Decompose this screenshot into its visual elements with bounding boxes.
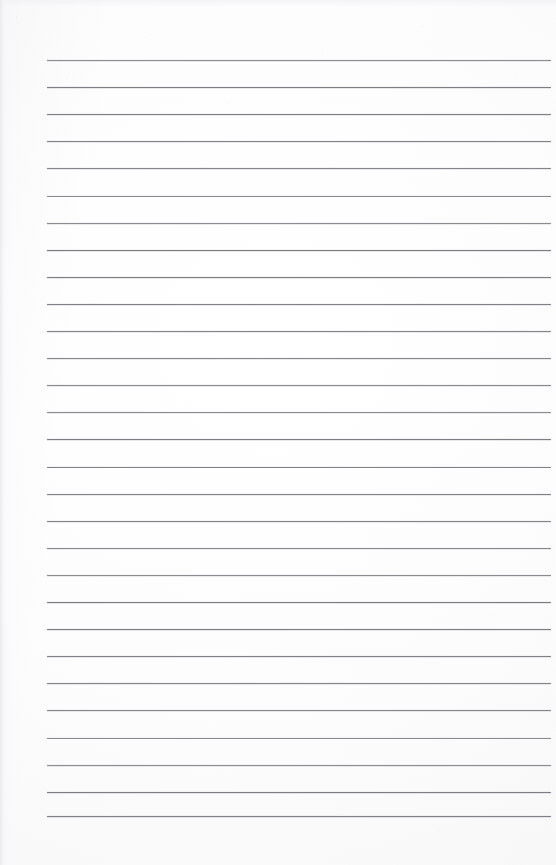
rule-line xyxy=(47,816,551,817)
rule-line xyxy=(47,60,551,61)
rule-line xyxy=(47,168,551,169)
rule-line xyxy=(47,250,551,251)
rule-line xyxy=(47,494,551,495)
rule-line xyxy=(47,114,551,115)
rule-line xyxy=(47,196,551,197)
rule-line xyxy=(47,385,551,386)
rule-line xyxy=(47,548,551,549)
rule-line xyxy=(47,467,551,468)
rule-line xyxy=(47,629,551,630)
rule-line xyxy=(47,439,551,440)
rule-line xyxy=(47,358,551,359)
rule-line xyxy=(47,765,551,766)
rule-line xyxy=(47,277,551,278)
rule-line xyxy=(47,738,551,739)
rule-line xyxy=(47,412,551,413)
rule-line xyxy=(47,87,551,88)
rule-line xyxy=(47,521,551,522)
rule-line xyxy=(47,331,551,332)
rule-line xyxy=(47,141,551,142)
scanned-page xyxy=(0,0,556,865)
rule-line xyxy=(47,710,551,711)
rule-line xyxy=(47,656,551,657)
rule-line xyxy=(47,223,551,224)
rule-line xyxy=(47,792,551,793)
rule-line xyxy=(47,304,551,305)
rule-line xyxy=(47,683,551,684)
rule-line xyxy=(47,575,551,576)
rule-line xyxy=(47,602,551,603)
ruled-lines-layer xyxy=(0,0,556,865)
